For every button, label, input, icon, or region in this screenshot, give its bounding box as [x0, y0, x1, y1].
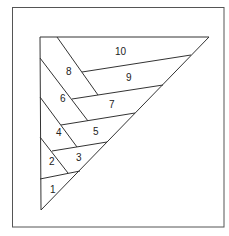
region-label: 5	[93, 126, 99, 137]
region-label: 2	[49, 156, 55, 167]
divider-2-4	[40, 137, 68, 173]
divider-4-6	[40, 97, 77, 147]
divider-6-8	[40, 58, 88, 121]
region-label: 4	[56, 127, 62, 138]
region-label: 8	[66, 66, 72, 77]
divider-8-10	[57, 37, 98, 95]
region-label: 9	[126, 72, 132, 83]
region-label: 1	[50, 184, 56, 195]
outer-frame	[13, 8, 225, 228]
outer-triangle	[40, 37, 209, 210]
divider-3-5	[52, 142, 107, 151]
region-label: 6	[60, 93, 66, 104]
triangle-partition-diagram: 12345678910	[0, 0, 229, 236]
divider-7-9	[72, 85, 163, 99]
region-label: 3	[76, 152, 82, 163]
divider-5-7	[61, 113, 135, 125]
region-label: 10	[115, 46, 127, 57]
divider-9-10	[82, 55, 191, 72]
region-label: 7	[109, 99, 115, 110]
divider-1-3	[40, 171, 80, 179]
